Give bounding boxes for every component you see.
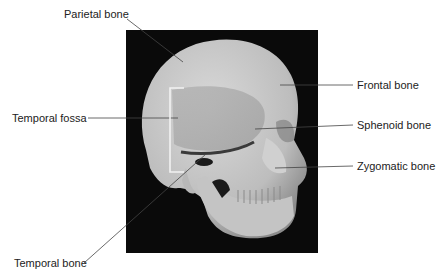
label-parietal-bone: Parietal bone bbox=[64, 8, 129, 21]
leader-lines bbox=[0, 0, 437, 276]
label-sphenoid-bone: Sphenoid bone bbox=[357, 119, 431, 132]
temporal-leader bbox=[84, 154, 206, 263]
sphenoid-leader bbox=[255, 125, 353, 129]
temporal-fossa-bracket bbox=[170, 88, 184, 172]
label-temporal-fossa: Temporal fossa bbox=[12, 112, 87, 125]
label-temporal-bone: Temporal bone bbox=[14, 257, 87, 270]
skull-diagram: Parietal bone Frontal bone Temporal foss… bbox=[0, 0, 437, 276]
label-frontal-bone: Frontal bone bbox=[357, 79, 419, 92]
zygomatic-leader bbox=[275, 166, 353, 168]
parietal-leader bbox=[127, 19, 183, 62]
label-zygomatic-bone: Zygomatic bone bbox=[357, 160, 435, 173]
